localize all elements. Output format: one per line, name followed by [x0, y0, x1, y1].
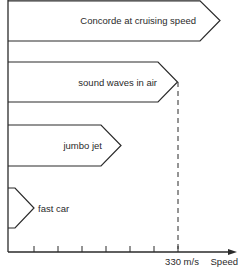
bar-label-fast-car: fast car [38, 203, 69, 214]
bar-label-concorde: Concorde at cruising speed [80, 15, 196, 26]
bar-jumbo-jet: jumbo jet [8, 125, 121, 166]
axis-arrowhead-icon [228, 249, 237, 255]
bar-concorde: Concorde at cruising speed [8, 1, 220, 41]
bar-sound-waves: sound waves in air [8, 62, 178, 102]
x-axis-label: Speed [211, 256, 238, 267]
marked-value-label: 330 m/s [165, 256, 199, 267]
arrow-shape [8, 188, 34, 228]
axis-ticks [34, 246, 178, 252]
bar-label-sound-waves: sound waves in air [78, 77, 157, 88]
bar-label-jumbo-jet: jumbo jet [62, 140, 102, 151]
speed-comparison-diagram: Concorde at cruising speed sound waves i… [0, 0, 238, 267]
bar-fast-car: fast car [8, 188, 69, 228]
